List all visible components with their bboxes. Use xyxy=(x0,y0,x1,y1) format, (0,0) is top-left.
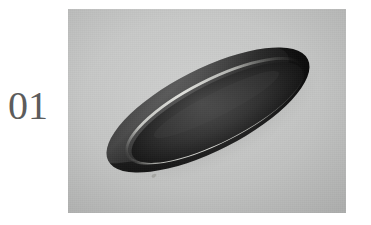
oval-dish-illustration xyxy=(68,9,346,213)
panel-label: 01 xyxy=(8,84,58,128)
photograph xyxy=(68,9,346,213)
figure-root: 01 xyxy=(0,0,371,225)
